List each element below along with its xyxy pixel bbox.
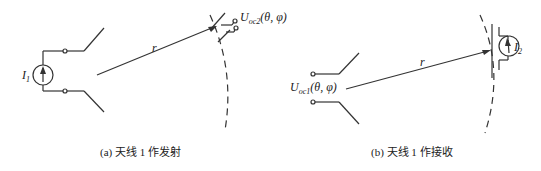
source-label-i2: I2 [514, 40, 522, 56]
distance-arrow-b [346, 51, 488, 89]
voltage-label-uoc1: Uoc1(θ, φ) [290, 80, 337, 96]
voltage-label-uoc2: Uoc2(θ, φ) [240, 10, 287, 26]
distance-label-a: r [152, 41, 157, 56]
caption-a: (a) 天线 1 作发射 [100, 143, 181, 159]
distance-label-b: r [420, 55, 425, 70]
source-label-i1: I1 [22, 68, 30, 84]
caption-b: (b) 天线 1 作接收 [371, 143, 453, 159]
far-field-arc-a [210, 15, 228, 130]
panel-a-antenna-1 [33, 28, 104, 112]
